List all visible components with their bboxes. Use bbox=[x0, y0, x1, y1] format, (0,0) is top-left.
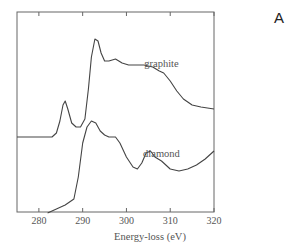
x-tick-label: 290 bbox=[75, 215, 90, 226]
x-tick-label: 310 bbox=[163, 215, 178, 226]
panel-label: A bbox=[274, 9, 284, 26]
diamond-label: diamond bbox=[143, 148, 180, 159]
series-lines bbox=[17, 39, 214, 213]
series-labels: graphitediamond bbox=[143, 58, 180, 159]
x-tick-label: 280 bbox=[31, 215, 46, 226]
x-tick-label: 320 bbox=[207, 215, 222, 226]
diamond-curve bbox=[48, 121, 214, 213]
plot-border bbox=[17, 12, 214, 212]
plot-frame bbox=[17, 12, 214, 212]
graphite-curve bbox=[17, 39, 214, 137]
x-axis-title: Energy-loss (eV) bbox=[114, 231, 186, 243]
x-tick-label: 300 bbox=[119, 215, 134, 226]
eels-chart: 280290300310320 graphitediamond Energy-l… bbox=[0, 0, 297, 249]
graphite-label: graphite bbox=[144, 58, 179, 69]
